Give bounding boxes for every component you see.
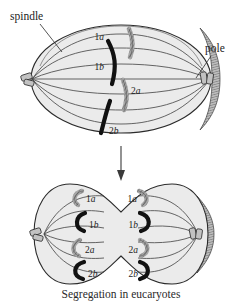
label-dr-2a: 2a: [129, 245, 139, 255]
label-top-1a: 1a: [95, 32, 105, 42]
panel-metaphase-cell: 1a 1b 2a 2b: [20, 25, 220, 136]
label-top-2b: 2b: [109, 126, 119, 136]
label-spindle: spindle: [10, 10, 43, 23]
panel-telophase-cell: 1a 1b 2a 2b 1a 1b 2a 2b: [29, 184, 214, 284]
segregation-diagram: 1a 1b 2a 2b spindle pole: [0, 0, 242, 301]
figure-root: 1a 1b 2a 2b spindle pole: [0, 0, 242, 301]
label-dl-1b: 1b: [89, 220, 99, 230]
label-pole: pole: [205, 42, 225, 55]
cell-membrane-telophase: [34, 184, 208, 284]
label-dr-1b: 1b: [129, 220, 139, 230]
label-top-1b: 1b: [95, 62, 105, 72]
label-dr-2b: 2b: [129, 269, 139, 279]
figure-caption: Segregation in eucaryotes: [62, 288, 181, 301]
label-dr-1a: 1a: [128, 194, 138, 204]
process-arrow-down: [117, 146, 125, 181]
label-dl-2b: 2b: [88, 269, 98, 279]
label-dl-1a: 1a: [86, 194, 96, 204]
label-top-2a: 2a: [131, 86, 141, 96]
label-dl-2a: 2a: [85, 245, 95, 255]
